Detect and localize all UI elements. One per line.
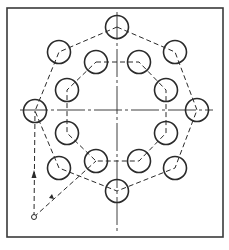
start-point-marker [32,215,37,220]
tool-path-drawing [0,0,229,250]
arrow-down-left-icon [49,194,54,199]
outer-hole [48,41,71,64]
start-point-icon [32,215,37,220]
approach-path-up [34,111,35,217]
inner-ring-path [67,62,166,161]
holes [24,16,209,203]
tool-paths [32,27,198,217]
approach-path-diagonal [34,161,96,217]
outer-ring-path [35,27,197,191]
inner-hole [56,122,79,145]
outer-hole [164,41,187,64]
arrow-up-icon [32,170,37,178]
